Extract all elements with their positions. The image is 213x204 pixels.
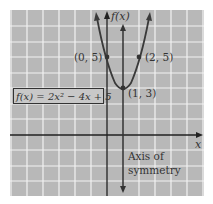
point-1-3 bbox=[121, 86, 126, 91]
point-label-2-5: (2, 5) bbox=[145, 51, 173, 63]
point-label-1-3: (1, 3) bbox=[128, 87, 156, 99]
parabola-chart: f(x) x (0, 5) (2, 5) (1, 3) f(x) = 2x² −… bbox=[0, 0, 213, 204]
y-axis-label: f(x) bbox=[110, 10, 130, 23]
axis-of-symmetry-label-line1: Axis of bbox=[127, 150, 165, 162]
x-axis-label: x bbox=[195, 138, 202, 151]
equation-label: f(x) = 2x² − 4x + 5 bbox=[15, 91, 112, 102]
point-label-0-5: (0, 5) bbox=[74, 51, 102, 63]
axis-of-symmetry-label-line2: symmetry bbox=[128, 164, 181, 176]
point-0-5 bbox=[105, 55, 110, 60]
point-2-5 bbox=[137, 55, 142, 60]
